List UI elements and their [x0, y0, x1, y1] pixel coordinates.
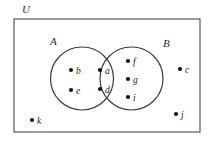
element-dot-a — [98, 68, 102, 72]
element-label-e: e — [76, 86, 80, 96]
venn-diagram-svg: U A B adbefgicjk — [0, 0, 213, 142]
venn-diagram-canvas: U A B adbefgicjk — [0, 0, 213, 142]
set-a-label: A — [49, 35, 57, 47]
element-dot-c — [178, 67, 182, 71]
element-dot-g — [126, 77, 130, 81]
element-dot-b — [69, 68, 73, 72]
element-dot-j — [174, 112, 178, 116]
element-dot-e — [69, 88, 73, 92]
element-dot-d — [98, 87, 102, 91]
element-label-a: a — [105, 66, 110, 76]
set-b-label: B — [163, 37, 170, 49]
element-label-d: d — [105, 85, 110, 95]
universal-set-label: U — [22, 3, 31, 15]
element-dot-i — [126, 95, 130, 99]
element-label-b: b — [76, 66, 81, 76]
element-dot-f — [126, 59, 130, 63]
element-label-i: i — [133, 93, 136, 103]
element-label-g: g — [133, 75, 138, 85]
element-dot-k — [30, 118, 34, 122]
universal-set-rectangle — [14, 19, 200, 132]
